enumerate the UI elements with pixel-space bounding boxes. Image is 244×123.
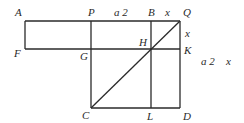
label-Q: Q [183, 6, 191, 18]
annotation-side-a2: a 2 [201, 55, 215, 67]
label-F: F [13, 47, 21, 59]
label-D: D [182, 110, 191, 122]
annotation-side-x: x [225, 55, 231, 67]
label-H: H [138, 36, 148, 48]
annotation-PB: a 2 [114, 6, 128, 18]
label-G: G [80, 50, 88, 62]
diagonal-QC [91, 21, 180, 108]
label-A: A [14, 6, 22, 18]
label-C: C [82, 109, 90, 121]
label-P: P [87, 6, 95, 18]
label-K: K [183, 44, 192, 56]
annotation-QK: x [184, 27, 190, 39]
annotation-BQ: x [164, 6, 170, 18]
label-L: L [146, 110, 153, 122]
geometry-diagram: A P B Q F G H K C L D a 2 x x a 2 x [0, 0, 244, 123]
label-B: B [148, 6, 155, 18]
